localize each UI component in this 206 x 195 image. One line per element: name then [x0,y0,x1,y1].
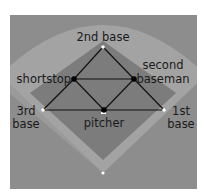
label-first-base-line1: 1st [172,104,190,118]
label-second-baseman-line1: second [142,58,183,72]
third-base-marker-icon [41,108,45,112]
label-second-base: 2nd base [77,30,130,44]
field-svg: 2nd base shortstop second baseman 3rd ba… [10,15,197,189]
label-second-baseman-line2: baseman [137,72,190,86]
baseball-field-diagram: 2nd base shortstop second baseman 3rd ba… [10,15,197,189]
label-pitcher: pitcher [84,116,125,130]
shortstop-dot-icon [71,76,77,82]
label-third-base-line2: base [12,117,39,131]
pitcher-dot-icon [101,107,107,113]
first-base-marker-icon [162,108,166,112]
label-shortstop: shortstop [17,72,71,86]
label-third-base-line1: 3rd [16,104,35,118]
label-first-base-line2: base [167,117,194,131]
second-base-marker-icon [101,45,105,49]
home-plate-marker-icon [101,171,104,174]
